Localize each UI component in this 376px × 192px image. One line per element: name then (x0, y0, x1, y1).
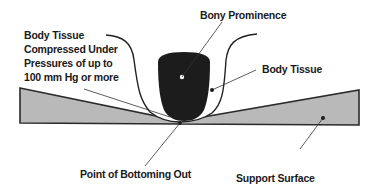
label-compressed-tissue-line1: Body Tissue (24, 28, 119, 42)
leader-bottoming-out (145, 123, 180, 166)
label-compressed-tissue-line4: 100 mm Hg or more (24, 70, 119, 84)
bottoming-out-dot (178, 121, 182, 125)
label-compressed-tissue-line2: Compressed Under (24, 42, 119, 56)
label-compressed-tissue-line3: Pressures of up to (24, 56, 119, 70)
body-tissue-dot (210, 88, 214, 92)
support-surface-dot (321, 116, 325, 120)
label-compressed-tissue: Body Tissue Compressed Under Pressures o… (24, 28, 119, 84)
label-support-surface: Support Surface (236, 171, 315, 185)
label-body-tissue: Body Tissue (262, 62, 322, 76)
bony-prominence-shape (158, 52, 210, 121)
pressure-diagram: Body Tissue Compressed Under Pressures o… (0, 0, 376, 192)
label-bony-prominence: Bony Prominence (200, 8, 286, 22)
label-bottoming-out: Point of Bottoming Out (80, 167, 191, 181)
